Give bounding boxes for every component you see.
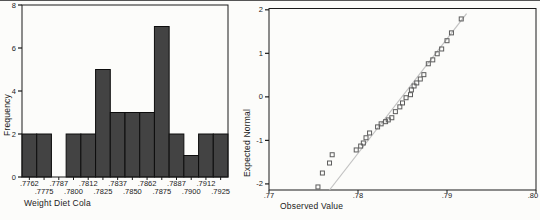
qq-y-tick-label: 0 — [259, 92, 263, 101]
histogram-x-tick-label: .7825 — [94, 187, 113, 196]
histogram-y-tick-label: 2 — [12, 130, 16, 139]
histogram-bar — [213, 134, 228, 177]
qq-y-tick-label: -2 — [256, 179, 263, 188]
qq-y-tick-label: 2 — [259, 5, 263, 14]
qq-frame — [269, 9, 536, 191]
qq-point — [364, 136, 368, 140]
histogram-bar — [125, 113, 140, 178]
qq-point — [409, 93, 413, 97]
histogram-x-tick-label: .7900 — [182, 187, 201, 196]
histogram-bar — [154, 27, 169, 178]
qq-point — [354, 148, 358, 152]
histogram-y-tick-label: 8 — [12, 1, 16, 10]
qq-point — [316, 185, 320, 189]
charts-svg: .7762.7775.7787.7800.7812.7825.7837.7850… — [0, 0, 540, 220]
histogram-bar — [110, 113, 125, 178]
histogram-bar — [96, 70, 111, 178]
histogram-y-axis-title: Frequency — [2, 71, 12, 159]
qq-point — [328, 161, 332, 165]
qq-point — [404, 96, 408, 100]
qq-point — [368, 131, 372, 135]
qq-x-axis-title: Observed Value — [280, 201, 343, 211]
histogram-y-tick-label: 6 — [12, 44, 16, 53]
histogram-bar — [37, 134, 52, 177]
spss-output-canvas: .7762.7775.7787.7800.7812.7825.7837.7850… — [0, 0, 540, 220]
histogram-bar — [169, 134, 184, 177]
qq-x-tick-label: .78 — [353, 191, 363, 200]
histogram-bar — [22, 134, 37, 177]
histogram-y-tick-label: 0 — [12, 173, 16, 182]
histogram-bar — [199, 134, 214, 177]
histogram-bar — [66, 134, 81, 177]
qq-point — [393, 110, 397, 114]
qq-y-tick-label: 1 — [259, 49, 263, 58]
histogram-bar — [81, 134, 96, 177]
qq-point — [422, 73, 426, 77]
qq-y-axis-title: Expected Normal — [242, 98, 252, 188]
histogram-x-axis-title: Weight Diet Cola — [24, 198, 91, 208]
histogram-bar — [140, 113, 155, 178]
qq-y-tick-label: -1 — [256, 136, 263, 145]
histogram-x-tick-label: .7850 — [123, 187, 142, 196]
histogram-y-tick-label: 4 — [12, 87, 16, 96]
qq-point — [409, 88, 413, 92]
histogram-x-tick-label: .7800 — [64, 187, 83, 196]
histogram-x-tick-label: .7925 — [211, 187, 230, 196]
qq-point — [418, 77, 422, 81]
histogram-bar — [184, 156, 199, 178]
qq-x-tick-label: .80 — [528, 191, 538, 200]
qq-x-tick-label: .77 — [264, 191, 274, 200]
qq-point — [398, 105, 402, 109]
histogram-x-tick-label: .7875 — [152, 187, 171, 196]
qq-reference-line — [330, 14, 467, 190]
qq-point — [320, 171, 324, 175]
histogram-x-tick-label: .7775 — [35, 187, 54, 196]
qq-point — [330, 153, 334, 157]
qq-point — [401, 101, 405, 105]
qq-x-tick-label: .79 — [442, 191, 452, 200]
